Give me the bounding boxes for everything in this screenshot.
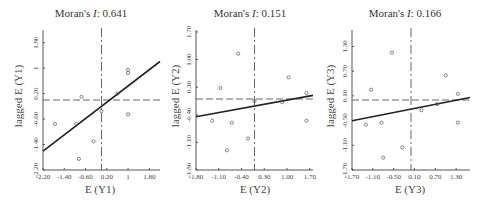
x-tick-label: 1.30 bbox=[450, 173, 463, 181]
y-tick-label: -0.60 bbox=[32, 111, 40, 126]
data-point bbox=[126, 113, 129, 116]
data-point bbox=[287, 76, 290, 79]
x-tick-label: -0.50 bbox=[386, 173, 401, 181]
data-point bbox=[126, 68, 129, 71]
y-tick-label: 0.30 bbox=[185, 81, 193, 94]
y-tick-label: -0.40 bbox=[185, 107, 193, 122]
y-tick-label: 0.70 bbox=[341, 65, 349, 78]
data-point bbox=[456, 92, 459, 95]
x-tick-label: -0.60 bbox=[78, 173, 93, 181]
data-point bbox=[456, 121, 459, 124]
y-tick-label: 1.70 bbox=[185, 25, 193, 38]
x-tick-label: 1.70 bbox=[304, 173, 317, 181]
x-tick-label: 0.20 bbox=[101, 173, 114, 181]
y-tick-label: 0.20 bbox=[32, 87, 40, 100]
x-tick-label: 0.70 bbox=[429, 173, 442, 181]
data-point bbox=[444, 74, 447, 77]
scatter-plot-area: -1.80-1.10-0.400.301.001.70-1.80-1.10-0.… bbox=[160, 0, 325, 206]
x-tick-label: 1.00 bbox=[281, 173, 294, 181]
y-tick-label: 0.10 bbox=[341, 89, 349, 102]
data-point bbox=[53, 122, 56, 125]
y-tick-label: -1.10 bbox=[341, 138, 349, 153]
x-tick-label: -1.10 bbox=[366, 173, 381, 181]
y-tick-label: -1.80 bbox=[185, 162, 193, 177]
data-point bbox=[237, 52, 240, 55]
scatter-plot-area: -1.70-1.10-0.500.100.701.30-1.70-1.10-0.… bbox=[320, 0, 481, 206]
y-tick-label: -1.40 bbox=[32, 137, 40, 152]
y-tick-label: 1 bbox=[32, 66, 40, 70]
y-tick-label: 1.00 bbox=[185, 53, 193, 66]
y-tick-label: -0.50 bbox=[341, 113, 349, 128]
data-point bbox=[246, 137, 249, 140]
data-point bbox=[92, 140, 95, 143]
y-tick-label: -2.20 bbox=[32, 162, 40, 177]
y-axis-label: lagged E (Y2) bbox=[169, 56, 181, 136]
data-point bbox=[211, 119, 214, 122]
x-axis-label: E (Y3) bbox=[350, 183, 470, 195]
y-tick-label: -1.10 bbox=[185, 135, 193, 150]
x-tick-label: -0.40 bbox=[234, 173, 249, 181]
data-point bbox=[364, 123, 367, 126]
moran-plot-y2: Moran's I: 0.151 -1.80-1.10-0.400.301.00… bbox=[160, 0, 320, 206]
scatter-plot-area: -2.20-1.40-0.600.2011.80-2.20-1.40-0.600… bbox=[0, 0, 165, 206]
x-tick-label: 0.30 bbox=[258, 173, 271, 181]
x-tick-label: -1.40 bbox=[57, 173, 72, 181]
data-point bbox=[305, 119, 308, 122]
data-point bbox=[77, 157, 80, 160]
moran-plot-y1: Moran's I: 0.641 -2.20-1.40-0.600.2011.8… bbox=[0, 0, 160, 206]
x-tick-label: 1 bbox=[126, 173, 130, 181]
data-point bbox=[382, 156, 385, 159]
y-tick-label: 1.80 bbox=[32, 36, 40, 49]
data-point bbox=[401, 146, 404, 149]
data-point bbox=[225, 149, 228, 152]
x-axis-label: E (Y1) bbox=[40, 183, 160, 195]
x-tick-label: 1.80 bbox=[143, 173, 156, 181]
data-point bbox=[380, 121, 383, 124]
data-point bbox=[100, 110, 103, 113]
x-tick-label: -1.10 bbox=[211, 173, 226, 181]
x-axis-label: E (Y2) bbox=[195, 183, 315, 195]
y-tick-label: 1.30 bbox=[341, 40, 349, 53]
y-tick-label: -1.70 bbox=[341, 162, 349, 177]
y-axis-label: lagged E (Y3) bbox=[324, 56, 336, 136]
data-point bbox=[390, 51, 393, 54]
data-point bbox=[305, 91, 308, 94]
moran-plot-y3: Moran's I: 0.166 -1.70-1.10-0.500.100.70… bbox=[320, 0, 480, 206]
data-point bbox=[126, 71, 129, 74]
data-point bbox=[219, 86, 222, 89]
data-point bbox=[230, 121, 233, 124]
x-tick-label: 0.10 bbox=[408, 173, 421, 181]
data-point bbox=[369, 88, 372, 91]
y-axis-label: lagged E (Y1) bbox=[12, 56, 24, 136]
data-point bbox=[80, 95, 83, 98]
data-point bbox=[420, 109, 423, 112]
